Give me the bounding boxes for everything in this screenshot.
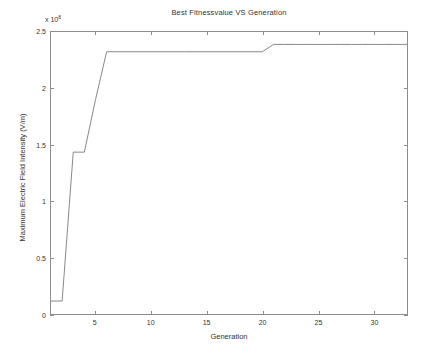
x-tick-mark xyxy=(95,311,96,315)
y-axis-exponent-base: x 10 xyxy=(45,16,58,23)
x-tick-mark xyxy=(374,311,375,315)
y-tick-mark-right xyxy=(404,31,408,32)
x-tick-mark-top xyxy=(95,31,96,35)
figure-canvas: x 108 Best Fitnessvalue VS Generation 51… xyxy=(0,0,426,364)
y-tick-mark xyxy=(50,31,54,32)
x-tick-label: 25 xyxy=(315,319,323,326)
y-tick-mark-right xyxy=(404,145,408,146)
y-tick-mark xyxy=(50,88,54,89)
y-axis-label: Maximum Electric Field Intensity (V/m) xyxy=(18,68,27,288)
x-tick-mark-top xyxy=(319,31,320,35)
x-axis-label: Generation xyxy=(50,332,408,341)
y-tick-mark xyxy=(50,258,54,259)
x-tick-label: 5 xyxy=(93,319,97,326)
x-tick-label: 20 xyxy=(259,319,267,326)
x-tick-mark-top xyxy=(263,31,264,35)
x-tick-mark xyxy=(151,311,152,315)
x-tick-mark-top xyxy=(374,31,375,35)
y-tick-mark xyxy=(50,201,54,202)
x-tick-mark-top xyxy=(151,31,152,35)
y-tick-mark-right xyxy=(404,88,408,89)
y-tick-mark xyxy=(50,315,54,316)
x-tick-label: 30 xyxy=(371,319,379,326)
x-tick-mark xyxy=(319,311,320,315)
plot-area xyxy=(50,31,408,315)
y-tick-label: 2.5 xyxy=(6,28,46,35)
data-line-series xyxy=(51,32,407,314)
x-tick-mark xyxy=(263,311,264,315)
x-tick-label: 10 xyxy=(147,319,155,326)
y-tick-mark-right xyxy=(404,315,408,316)
y-tick-mark xyxy=(50,145,54,146)
y-tick-mark-right xyxy=(404,201,408,202)
chart-title: Best Fitnessvalue VS Generation xyxy=(50,8,408,17)
x-tick-mark-top xyxy=(207,31,208,35)
x-tick-mark xyxy=(207,311,208,315)
x-tick-label: 15 xyxy=(203,319,211,326)
y-tick-mark-right xyxy=(404,258,408,259)
y-tick-label: 0 xyxy=(6,312,46,319)
